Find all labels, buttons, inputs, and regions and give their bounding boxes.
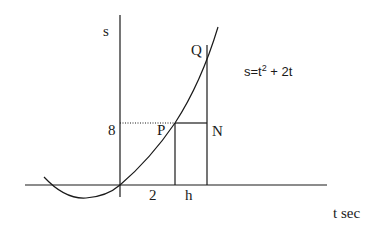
t-axis-label: t sec: [333, 205, 360, 221]
s-axis-label: s: [103, 23, 109, 39]
x-tick-2: 2: [149, 187, 157, 203]
x-tick-h: h: [185, 187, 193, 203]
point-q-label: Q: [191, 42, 202, 58]
y-tick-8: 8: [108, 122, 116, 138]
point-n-label: N: [212, 123, 223, 139]
motion-graph: s Q 8 P N 2 h t sec s=t2 + 2t: [0, 0, 376, 227]
point-p-label: P: [157, 122, 165, 138]
equation-label: s=t2 + 2t: [244, 63, 293, 79]
